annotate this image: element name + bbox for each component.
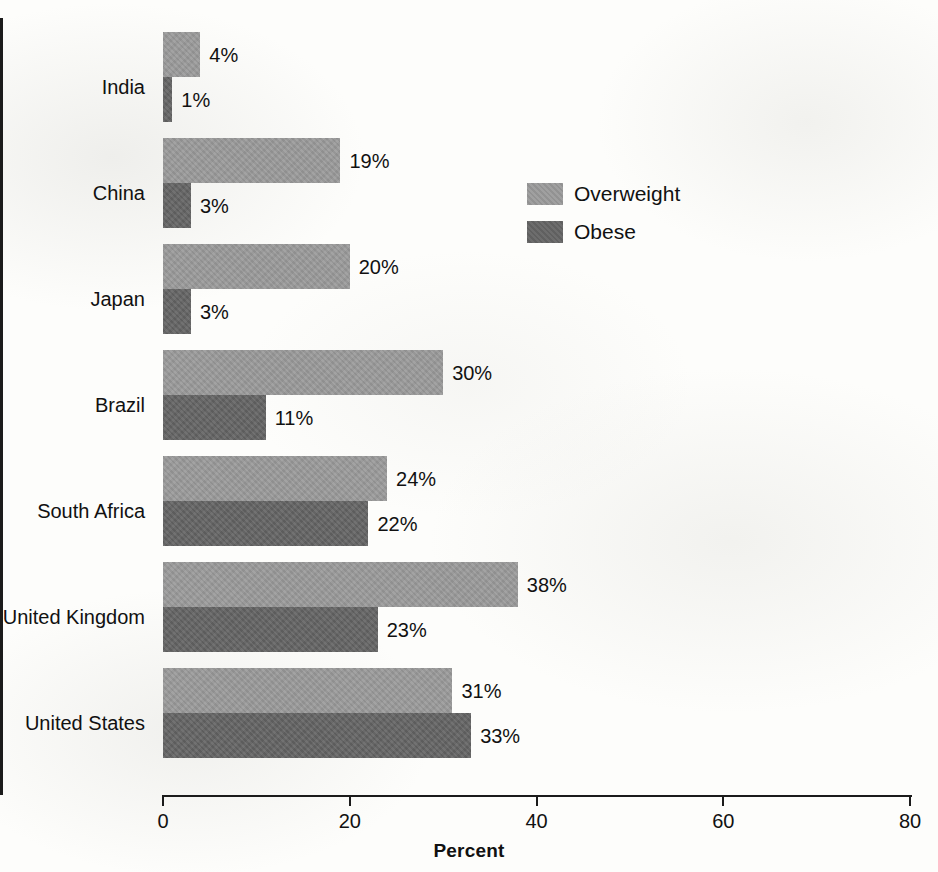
bar-overweight[interactable]	[163, 244, 350, 289]
bar-obese[interactable]	[163, 607, 378, 652]
category-label: India	[102, 76, 145, 99]
legend-item-obese: Obese	[527, 217, 680, 247]
bar-obese[interactable]	[163, 77, 172, 122]
bar-overweight[interactable]	[163, 32, 200, 77]
category-label: South Africa	[37, 500, 145, 523]
category-label: Japan	[91, 288, 146, 311]
bar-overweight[interactable]	[163, 138, 340, 183]
y-axis-line	[0, 18, 3, 795]
x-axis-tick	[722, 795, 724, 806]
bar-obese[interactable]	[163, 183, 191, 228]
bar-value-label: 22%	[377, 512, 417, 535]
bar-overweight[interactable]	[163, 668, 452, 713]
x-axis-tick	[349, 795, 351, 806]
x-axis-title: Percent	[0, 840, 938, 862]
legend-label-obese: Obese	[574, 220, 636, 244]
bar-overweight[interactable]	[163, 456, 387, 501]
bar-value-label: 30%	[452, 361, 492, 384]
x-axis-line	[163, 795, 912, 797]
bar-overweight[interactable]	[163, 350, 443, 395]
x-axis-tick	[909, 795, 911, 806]
x-axis-tick	[162, 795, 164, 806]
bar-value-label: 19%	[349, 149, 389, 172]
x-axis-tick-label: 60	[712, 810, 734, 833]
x-axis-tick	[536, 795, 538, 806]
bar-obese[interactable]	[163, 501, 368, 546]
grouped-bar-chart: 020406080 India4%1%China19%3%Japan20%3%B…	[0, 0, 938, 872]
bar-value-label: 3%	[200, 300, 229, 323]
x-axis-tick-label: 20	[339, 810, 361, 833]
legend-label-overweight: Overweight	[574, 182, 680, 206]
bar-obese[interactable]	[163, 289, 191, 334]
x-axis-tick-label: 0	[157, 810, 168, 833]
bar-value-label: 23%	[387, 618, 427, 641]
bar-value-label: 4%	[209, 43, 238, 66]
category-label: United Kingdom	[3, 606, 145, 629]
bar-overweight[interactable]	[163, 562, 518, 607]
x-axis-tick-label: 80	[899, 810, 921, 833]
bar-obese[interactable]	[163, 395, 266, 440]
bar-value-label: 1%	[181, 88, 210, 111]
bar-value-label: 31%	[461, 679, 501, 702]
bar-value-label: 20%	[359, 255, 399, 278]
category-label: United States	[25, 712, 145, 735]
bar-value-label: 11%	[275, 406, 314, 429]
x-axis-tick-label: 40	[525, 810, 547, 833]
legend-item-overweight: Overweight	[527, 179, 680, 209]
category-label: Brazil	[95, 394, 145, 417]
bar-value-label: 33%	[480, 724, 520, 747]
bar-value-label: 24%	[396, 467, 436, 490]
bar-obese[interactable]	[163, 713, 471, 758]
category-label: China	[93, 182, 145, 205]
bar-value-label: 38%	[527, 573, 567, 596]
legend-swatch-obese-icon	[527, 221, 563, 243]
chart-legend: Overweight Obese	[527, 179, 680, 255]
legend-swatch-overweight-icon	[527, 183, 563, 205]
bar-value-label: 3%	[200, 194, 229, 217]
